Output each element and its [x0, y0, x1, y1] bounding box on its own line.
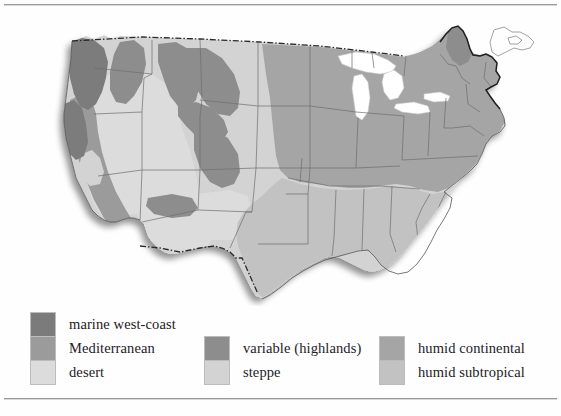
landmass-group: [0, 8, 561, 306]
legend-label-marine-west-coast: marine west-coast: [69, 312, 176, 336]
legend-swatch-steppe: [205, 360, 229, 384]
legend-swatch-stack-left: [30, 312, 56, 385]
legend-labels-middle: variable (highlands) steppe: [243, 336, 361, 384]
legend-label-desert: desert: [69, 360, 176, 384]
cape-outline: [508, 36, 522, 44]
legend-label-humid-continental: humid continental: [418, 336, 525, 360]
legend-group-right: humid continental humid subtropical: [379, 336, 525, 385]
legend-label-mediterranean: Mediterranean: [69, 336, 176, 360]
legend-group-left: marine west-coast Mediterranean desert: [30, 312, 176, 385]
fill-humid-subtropical: [236, 178, 452, 298]
legend-swatch-desert: [31, 360, 55, 384]
legend-swatch-stack-middle: [204, 336, 230, 385]
legend-label-humid-subtropical: humid subtropical: [418, 360, 525, 384]
bottom-rule: [4, 398, 557, 399]
nova-scotia-outline: [490, 27, 534, 56]
legend-labels-right: humid continental humid subtropical: [418, 336, 525, 384]
figure-page: marine west-coast Mediterranean desert v…: [0, 0, 561, 416]
legend-swatch-marine-west-coast: [31, 313, 55, 336]
climate-fills: [0, 8, 561, 306]
climate-map: [0, 8, 561, 306]
map-legend: marine west-coast Mediterranean desert v…: [0, 308, 561, 394]
legend-labels-left: marine west-coast Mediterranean desert: [69, 312, 176, 384]
legend-label-variable-highlands: variable (highlands): [243, 336, 361, 360]
legend-swatch-humid-subtropical: [380, 360, 404, 384]
top-rule: [4, 4, 557, 5]
legend-group-middle: variable (highlands) steppe: [204, 336, 361, 385]
legend-swatch-mediterranean: [31, 336, 55, 360]
legend-swatch-variable-highlands: [205, 337, 229, 360]
legend-swatch-stack-right: [379, 336, 405, 385]
legend-swatch-humid-continental: [380, 337, 404, 360]
offshore-landforms: [490, 27, 534, 56]
legend-label-steppe: steppe: [243, 360, 361, 384]
